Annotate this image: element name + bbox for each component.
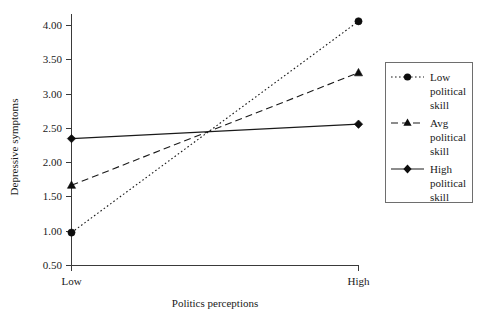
legend-label-avg-line3: skill [430,145,449,157]
interaction-plot-figure: 0.50 1.00 1.50 2.00 2.50 3.00 3.50 4.00 … [0,0,486,319]
legend-marker-circle-icon [404,73,411,80]
legend-label-high-line1: High [430,163,453,175]
legend-label-high-line2: political [430,177,466,189]
y-axis-title: Depressive symptoms [8,99,20,196]
legend-label-low-line2: political [430,85,466,97]
y-tick-label-5: 3.00 [43,88,63,100]
y-axis-tick-labels: 0.50 1.00 1.50 2.00 2.50 3.00 3.50 4.00 [43,19,63,271]
legend-label-high-line3: skill [430,191,449,203]
legend: Low political skill Avg political skill … [386,63,473,204]
series-group [72,21,359,232]
x-tick-label-high: High [348,275,371,287]
legend-label-avg-line1: Avg [430,117,449,129]
y-tick-label-1: 1.00 [43,225,63,237]
chart-canvas: 0.50 1.00 1.50 2.00 2.50 3.00 3.50 4.00 … [0,0,486,319]
y-tick-label-3: 2.00 [43,156,63,168]
data-point-high-skill-low-politics [67,134,75,142]
x-tick-label-low: Low [61,275,81,287]
series-line-high-political-skill [72,124,359,138]
x-axis-ticks [72,266,359,272]
legend-label-avg-line2: political [430,131,466,143]
data-point-high-skill-high-politics [354,120,362,128]
series-line-avg-political-skill [72,73,359,186]
x-axis-title: Politics perceptions [172,297,258,309]
y-tick-label-7: 4.00 [43,19,63,31]
y-tick-label-6: 3.50 [43,53,63,65]
y-tick-label-2: 1.50 [43,190,63,202]
data-point-avg-skill-high-politics [354,68,362,75]
data-point-low-skill-high-politics [355,18,362,25]
y-tick-label-0: 0.50 [43,259,63,271]
legend-label-low-line1: Low [430,71,450,83]
y-tick-label-4: 2.50 [43,122,63,134]
data-point-low-skill-low-politics [68,229,75,236]
legend-label-low-line3: skill [430,99,449,111]
